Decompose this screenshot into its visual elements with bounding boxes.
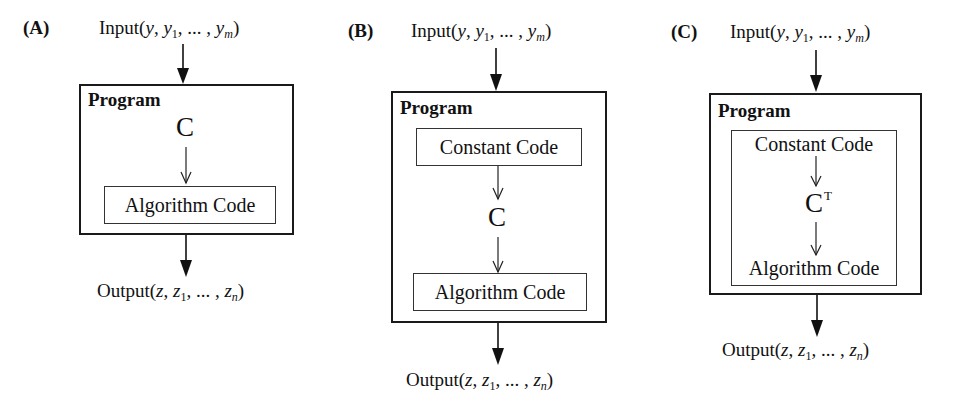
panel-b-input: Input(y, y1, ... , ym) — [411, 20, 551, 42]
panel-b-constant-symbol: C — [488, 202, 506, 233]
panel-c-constant-symbol: CT — [805, 188, 832, 219]
panel-a-algorithm-code-box: Algorithm Code — [104, 186, 276, 224]
panel-b-program-title: Program — [400, 97, 472, 119]
transpose-superscript: T — [824, 188, 832, 203]
panel-a-input: Input(y, y1, ... , ym) — [99, 17, 239, 39]
panel-a-label: (A) — [23, 17, 49, 39]
panel-b-output: Output(z, z1, ... , zn) — [406, 369, 553, 391]
panel-a-program-title: Program — [88, 89, 160, 111]
panel-c-constant-code-label: Constant Code — [731, 133, 897, 156]
panel-b-label: (B) — [348, 20, 373, 42]
panel-c-algorithm-code-label: Algorithm Code — [731, 257, 897, 280]
panel-b-constant-code-box: Constant Code — [416, 128, 582, 166]
panel-c-output: Output(z, z1, ... , zn) — [722, 339, 869, 361]
panel-c-input: Input(y, y1, ... , ym) — [730, 21, 870, 43]
panel-b-algorithm-code-box: Algorithm Code — [413, 273, 587, 311]
panel-c-label: (C) — [671, 21, 697, 43]
panel-c-program-title: Program — [718, 100, 790, 122]
panel-a-output: Output(z, z1, ... , zn) — [97, 280, 244, 302]
panel-a-constant-symbol: C — [176, 112, 194, 143]
